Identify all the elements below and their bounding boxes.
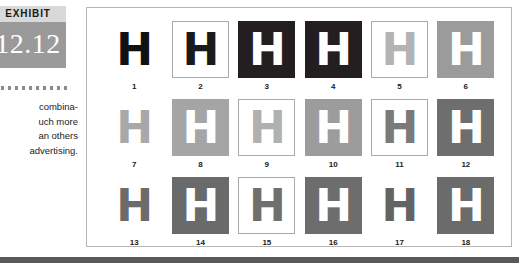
h-glyph: H [183, 106, 219, 150]
exhibit-number: 12.12 [0, 22, 66, 68]
h-swatch: H [437, 99, 494, 156]
h-cell: H18 [433, 177, 499, 255]
h-swatch: H [305, 21, 362, 78]
h-cell: H1 [101, 21, 167, 99]
h-glyph: H [183, 28, 219, 72]
divider-dot [50, 86, 53, 90]
h-swatch: H [437, 21, 494, 78]
h-swatch: H [371, 99, 428, 156]
h-glyph: H [315, 28, 351, 72]
h-swatch: H [371, 177, 428, 234]
h-cell: H6 [433, 21, 499, 99]
h-glyph: H [116, 184, 152, 228]
h-glyph: H [249, 28, 285, 72]
exhibit-margin-column: EXHIBIT 12.12 combina- uch more an other… [0, 0, 84, 263]
h-cell: H12 [433, 99, 499, 177]
caption-line: an others [0, 129, 78, 144]
h-swatch: H [238, 99, 295, 156]
h-glyph: H [382, 106, 418, 150]
h-contrast-grid: H1H2H3H4H5H6H7H8H9H10H11H12H13H14H15H16H… [101, 21, 499, 255]
exhibit-badge: EXHIBIT 12.12 [0, 6, 66, 68]
divider-dot [64, 86, 67, 90]
h-cell-number: 12 [461, 160, 470, 169]
h-cell-number: 1 [132, 82, 136, 91]
h-cell-number: 8 [198, 160, 202, 169]
h-cell-number: 5 [397, 82, 401, 91]
h-swatch: H [172, 177, 229, 234]
h-cell-number: 3 [265, 82, 269, 91]
caption-line: advertising. [0, 144, 78, 159]
divider-dot [22, 86, 25, 90]
divider-dot [57, 86, 60, 90]
divider-dot [8, 86, 11, 90]
h-cell: H2 [167, 21, 233, 99]
h-cell-number: 18 [461, 238, 470, 247]
h-cell: H7 [101, 99, 167, 177]
h-cell: H17 [366, 177, 432, 255]
h-cell: H10 [300, 99, 366, 177]
h-glyph: H [116, 106, 152, 150]
h-cell-number: 9 [265, 160, 269, 169]
divider-dot [29, 86, 32, 90]
h-swatch: H [172, 21, 229, 78]
h-glyph: H [249, 184, 285, 228]
h-swatch: H [371, 21, 428, 78]
h-cell: H4 [300, 21, 366, 99]
h-cell: H15 [234, 177, 300, 255]
h-cell-number: 13 [130, 238, 139, 247]
h-glyph: H [448, 106, 484, 150]
exhibit-label: EXHIBIT [0, 6, 66, 22]
h-glyph: H [448, 28, 484, 72]
h-swatch: H [106, 177, 163, 234]
caption-line: combina- [0, 100, 78, 115]
h-swatch: H [305, 177, 362, 234]
h-glyph: H [382, 184, 418, 228]
h-swatch: H [106, 21, 163, 78]
h-glyph: H [448, 184, 484, 228]
caption-line: uch more [0, 115, 78, 130]
h-glyph: H [116, 28, 152, 72]
h-cell-number: 10 [329, 160, 338, 169]
h-cell-number: 11 [395, 160, 403, 169]
h-cell-number: 2 [198, 82, 202, 91]
h-glyph: H [183, 184, 219, 228]
h-glyph: H [315, 184, 351, 228]
h-glyph: H [315, 106, 351, 150]
h-cell: H5 [366, 21, 432, 99]
h-swatch: H [172, 99, 229, 156]
h-cell-number: 14 [196, 238, 205, 247]
h-cell: H9 [234, 99, 300, 177]
h-swatch: H [305, 99, 362, 156]
h-swatch: H [437, 177, 494, 234]
h-cell: H16 [300, 177, 366, 255]
h-cell: H8 [167, 99, 233, 177]
h-cell: H3 [234, 21, 300, 99]
h-cell-number: 4 [331, 82, 335, 91]
dotted-divider [0, 86, 68, 91]
h-swatch: H [238, 177, 295, 234]
h-cell: H11 [366, 99, 432, 177]
h-glyph: H [249, 106, 285, 150]
h-cell-number: 6 [464, 82, 468, 91]
h-cell-number: 16 [329, 238, 338, 247]
exhibit-caption: combina- uch more an others advertising. [0, 100, 78, 158]
h-cell: H14 [167, 177, 233, 255]
divider-dot [43, 86, 46, 90]
h-swatch: H [106, 99, 163, 156]
h-glyph: H [382, 28, 418, 72]
divider-dot [36, 86, 39, 90]
footer-bar [0, 257, 519, 263]
h-cell: H13 [101, 177, 167, 255]
figure-panel: H1H2H3H4H5H6H7H8H9H10H11H12H13H14H15H16H… [86, 7, 512, 247]
h-cell-number: 17 [395, 238, 404, 247]
divider-dot [15, 86, 18, 90]
h-cell-number: 15 [262, 238, 271, 247]
h-cell-number: 7 [132, 160, 136, 169]
divider-dot [1, 86, 4, 90]
h-swatch: H [238, 21, 295, 78]
